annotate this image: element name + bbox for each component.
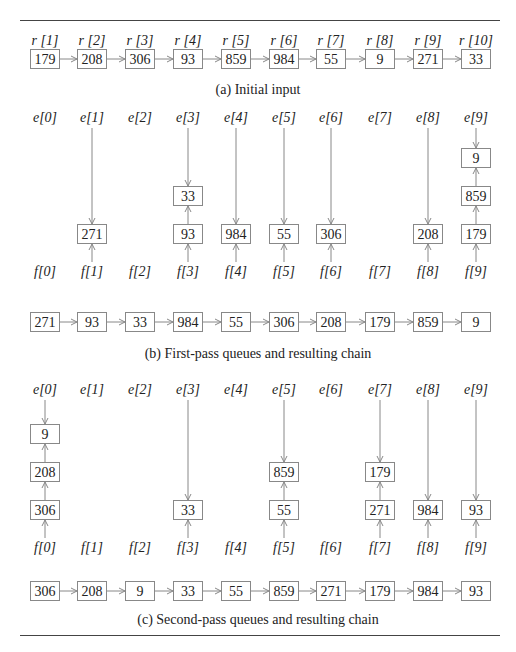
record-label: r [6] xyxy=(262,33,306,49)
record-label: r [7] xyxy=(309,33,353,49)
record-label: r [1] xyxy=(23,33,67,49)
chain-node: 271 xyxy=(413,49,443,69)
queue-node: 208 xyxy=(30,462,60,482)
queue-end-label: e[6] xyxy=(309,110,353,126)
caption-c: (c) Second-pass queues and resulting cha… xyxy=(0,612,516,628)
chain-node: 859 xyxy=(413,312,443,332)
queue-end-label: e[8] xyxy=(406,110,450,126)
queue-end-label: e[0] xyxy=(23,382,67,398)
chain-node: 984 xyxy=(413,581,443,601)
queue-end-label: e[7] xyxy=(358,110,402,126)
queue-front-label: f[8] xyxy=(406,540,450,556)
queue-front-label: f[3] xyxy=(166,540,210,556)
chain-node: 93 xyxy=(173,49,203,69)
queue-front-label: f[6] xyxy=(309,540,353,556)
queue-end-label: e[4] xyxy=(214,110,258,126)
chain-node: 208 xyxy=(77,49,107,69)
chain-node: 9 xyxy=(125,581,155,601)
queue-node: 33 xyxy=(173,500,203,520)
queue-front-label: f[8] xyxy=(406,264,450,280)
queue-end-label: e[3] xyxy=(166,382,210,398)
queue-front-label: f[1] xyxy=(70,264,114,280)
queue-node: 859 xyxy=(269,462,299,482)
caption-b: (b) First-pass queues and resulting chai… xyxy=(0,346,516,362)
chain-node: 9 xyxy=(461,312,491,332)
queue-end-label: e[1] xyxy=(70,382,114,398)
queue-front-label: f[2] xyxy=(118,264,162,280)
queue-node: 984 xyxy=(413,500,443,520)
record-label: r [8] xyxy=(358,33,402,49)
chain-node: 179 xyxy=(365,581,395,601)
chain-node: 306 xyxy=(30,581,60,601)
chain-node: 271 xyxy=(30,312,60,332)
queue-node: 208 xyxy=(413,224,443,244)
queue-end-label: e[0] xyxy=(23,110,67,126)
chain-node: 93 xyxy=(77,312,107,332)
queue-node: 9 xyxy=(461,148,491,168)
record-label: r [3] xyxy=(118,33,162,49)
queue-front-label: f[9] xyxy=(454,264,498,280)
queue-node: 55 xyxy=(269,224,299,244)
queue-node: 271 xyxy=(365,500,395,520)
chain-node: 55 xyxy=(221,312,251,332)
queue-front-label: f[6] xyxy=(309,264,353,280)
chain-node: 984 xyxy=(269,49,299,69)
queue-end-label: e[2] xyxy=(118,110,162,126)
chain-node: 306 xyxy=(269,312,299,332)
chain-node: 55 xyxy=(316,49,346,69)
queue-front-label: f[0] xyxy=(23,264,67,280)
queue-node: 179 xyxy=(461,224,491,244)
queue-node: 179 xyxy=(365,462,395,482)
record-label: r [4] xyxy=(166,33,210,49)
record-label: r [5] xyxy=(214,33,258,49)
queue-front-label: f[7] xyxy=(358,264,402,280)
queue-node: 984 xyxy=(221,224,251,244)
queue-front-label: f[7] xyxy=(358,540,402,556)
queue-end-label: e[8] xyxy=(406,382,450,398)
queue-end-label: e[1] xyxy=(70,110,114,126)
chain-node: 93 xyxy=(461,581,491,601)
queue-front-label: f[5] xyxy=(262,540,306,556)
record-label: r [10] xyxy=(454,33,498,49)
record-label: r [2] xyxy=(70,33,114,49)
chain-node: 9 xyxy=(365,49,395,69)
queue-node: 33 xyxy=(173,186,203,206)
chain-node: 55 xyxy=(221,581,251,601)
chain-node: 208 xyxy=(316,312,346,332)
queue-end-label: e[7] xyxy=(358,382,402,398)
queue-front-label: f[4] xyxy=(214,540,258,556)
chain-node: 33 xyxy=(125,312,155,332)
queue-end-label: e[3] xyxy=(166,110,210,126)
queue-node: 271 xyxy=(77,224,107,244)
queue-end-label: e[4] xyxy=(214,382,258,398)
queue-front-label: f[1] xyxy=(70,540,114,556)
queue-node: 306 xyxy=(316,224,346,244)
chain-node: 859 xyxy=(269,581,299,601)
queue-end-label: e[9] xyxy=(454,382,498,398)
queue-end-label: e[6] xyxy=(309,382,353,398)
queue-end-label: e[5] xyxy=(262,110,306,126)
queue-end-label: e[5] xyxy=(262,382,306,398)
queue-front-label: f[9] xyxy=(454,540,498,556)
chain-node: 306 xyxy=(125,49,155,69)
queue-node: 306 xyxy=(30,500,60,520)
chain-node: 33 xyxy=(173,581,203,601)
chain-node: 179 xyxy=(30,49,60,69)
chain-node: 984 xyxy=(173,312,203,332)
queue-node: 859 xyxy=(461,186,491,206)
queue-front-label: f[2] xyxy=(118,540,162,556)
chain-node: 33 xyxy=(461,49,491,69)
queue-front-label: f[4] xyxy=(214,264,258,280)
queue-node: 93 xyxy=(173,224,203,244)
queue-end-label: e[2] xyxy=(118,382,162,398)
queue-end-label: e[9] xyxy=(454,110,498,126)
record-label: r [9] xyxy=(406,33,450,49)
caption-a: (a) Initial input xyxy=(0,82,516,98)
queue-node: 93 xyxy=(461,500,491,520)
queue-front-label: f[0] xyxy=(23,540,67,556)
chain-node: 271 xyxy=(316,581,346,601)
queue-node: 55 xyxy=(269,500,299,520)
chain-node: 859 xyxy=(221,49,251,69)
queue-front-label: f[3] xyxy=(166,264,210,280)
chain-node: 179 xyxy=(365,312,395,332)
